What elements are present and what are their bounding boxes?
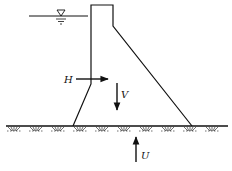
water-level [29, 10, 88, 24]
force-h-label: H [63, 74, 73, 85]
force-u-label: U [141, 150, 150, 161]
dam-diagram: H V U [0, 0, 232, 171]
dam-body [73, 5, 192, 126]
force-v-label: V [121, 89, 130, 100]
water-level-triangle-icon [57, 10, 65, 16]
ground-hatching [7, 127, 219, 131]
